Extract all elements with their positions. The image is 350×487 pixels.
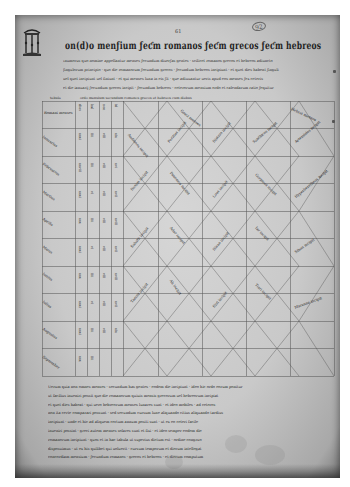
numeric-cell: xxviii [78, 163, 82, 172]
numeric-cell: xxxi [78, 301, 82, 308]
row-label: Maius [42, 245, 53, 255]
footer-line: inueniri possint · greci autem menses so… [48, 427, 310, 436]
numeric-cell: xxxi [78, 133, 82, 140]
numeric-cell: iiii [90, 356, 94, 360]
row-label: Martius [42, 190, 56, 201]
numeric-cell: viii [102, 328, 106, 333]
numeric-cell: xvii [114, 246, 118, 252]
footer-line: et quot dies habeat · qui uero hebreorum… [48, 401, 310, 410]
numeric-cell: xxx [78, 218, 82, 224]
numeric-cell: iiii [90, 328, 94, 332]
header-cell-non: non [102, 104, 106, 110]
numeric-cell: viii [102, 301, 106, 306]
numeric-cell: xxxi [78, 328, 82, 335]
numeric-cell: xvii [114, 191, 118, 197]
footer-line: Uerum quia non omnes menses · secundum h… [48, 383, 310, 392]
row-label: Ianuarius [42, 135, 59, 148]
header-cell-dies: dies [78, 104, 82, 111]
folio-mark-top: 61 [175, 28, 181, 34]
row-label: Iulius [42, 300, 53, 309]
margin-mark [333, 70, 336, 73]
row-label: September [42, 355, 61, 370]
numeric-cell: viii [102, 218, 106, 223]
decorated-initial-icon [22, 27, 42, 57]
intro-line: ƒingulorum principio · quo die romanorum… [63, 66, 335, 75]
footer-line: non ita certe comparari possunt · sed se… [48, 409, 310, 418]
numeric-cell: viii [102, 163, 106, 168]
diagonal-ruling [123, 101, 334, 376]
row-label: Februarius [42, 162, 61, 177]
intro-paragraph: ιnumerus quo nomine appellantur menses ƒ… [63, 57, 335, 93]
numeric-cell: xvi [114, 163, 118, 168]
page-title: on(d)o menƒium ƒeƈm romanos ƒeƈm grecos … [65, 40, 335, 52]
numeric-cell: xxxi [78, 191, 82, 198]
row-label: Aprilis [42, 217, 54, 227]
numeric-cell: xvii [114, 301, 118, 307]
manuscript-leaf: 61 92 on(d)o menƒium ƒeƈm romanos ƒeƈm g… [15, 15, 340, 478]
water-stain [255, 445, 285, 465]
numeric-cell: iiii [90, 163, 94, 167]
numeric-cell: iiii [90, 273, 94, 277]
margin-mark [332, 120, 335, 123]
numeric-cell: xxx [78, 273, 82, 279]
intro-line: ιnumerus quo nomine appellantur menses ƒ… [63, 57, 335, 66]
numeric-cell: iiii [90, 133, 94, 137]
numeric-cell: viii [102, 191, 106, 196]
numeric-cell: xviii [114, 273, 118, 280]
header-cell-romani: Romani menses [44, 111, 73, 115]
numeric-cell: xix [114, 328, 118, 333]
numeric-cell: xviii [114, 218, 118, 225]
numeric-cell: viii [102, 273, 106, 278]
table-caption-label: tabula [50, 96, 61, 100]
header-cell-id: id [114, 104, 118, 107]
numeric-cell: iiii [90, 218, 94, 222]
row-label: Iunius [42, 272, 54, 282]
folio-number-circled: 92 [251, 21, 266, 32]
footer-line: incipiunt · unde et hic ad aliquem certu… [48, 418, 310, 427]
row-label: Augustus [42, 327, 58, 340]
footer-line: romanorum incipiunt · quos et in hac tab… [48, 436, 310, 445]
table-caption: tabula ordo mensium secundum romanos gre… [50, 96, 250, 100]
numeric-cell: xix [114, 133, 118, 138]
intro-line: et die ianuarij ƒecundum grecos incipit … [63, 84, 335, 93]
intro-line: uel quot incipiunt uel finiunt · et qui … [63, 75, 335, 84]
numeric-cell: vi [90, 191, 94, 194]
numeric-cell: xxx [78, 356, 82, 362]
numeric-cell: xxxi [78, 246, 82, 253]
numeric-cell: vi [90, 301, 94, 304]
numeric-cell: vi [90, 246, 94, 249]
numeric-cell: viii [102, 246, 106, 251]
water-stain [225, 435, 247, 453]
numeric-cell: viii [102, 133, 106, 138]
table-caption-text: ordo mensium secundum romanos grecos et … [80, 96, 192, 100]
month-concordance-table: Romani menses dies kal non id Greci mens… [42, 101, 334, 376]
footer-line: ut facilius inueniri possit quo die roma… [48, 392, 310, 401]
water-stain [165, 455, 183, 469]
header-cell-kal: kal [90, 104, 94, 109]
